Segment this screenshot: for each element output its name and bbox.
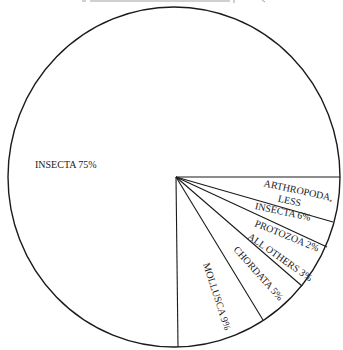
label-insecta: INSECTA 75% xyxy=(35,159,97,170)
pie-chart: INSECTA 75% ARTHROPODA, LESS INSECTA 6% … xyxy=(0,0,343,350)
title-remnant xyxy=(82,0,265,3)
